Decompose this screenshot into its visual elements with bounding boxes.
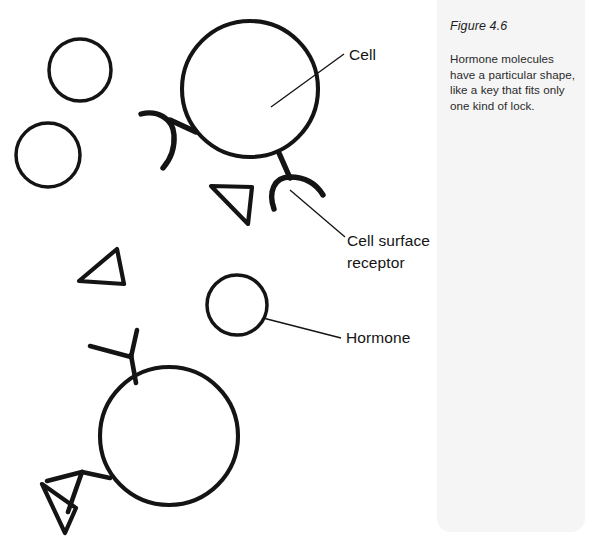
bottom-cell-receptor-lower-left-stem <box>82 472 110 478</box>
caption-block: Figure 4.6 Hormone molecules have a part… <box>450 18 578 113</box>
bottom-cell-receptor-upper-left-arm-right <box>131 330 137 357</box>
round-hormone-3 <box>207 275 267 335</box>
bottom-cell-receptor-lower-left-arm-upper <box>47 472 82 481</box>
triangle-hormone-2 <box>79 249 124 284</box>
label-cell-surface-receptor-line2: receptor <box>347 254 405 271</box>
label-cell: Cell <box>349 46 376 63</box>
figure-number-label: Figure 4.6 <box>450 18 578 34</box>
leader-line-cell-surface-receptor <box>290 190 345 237</box>
top-cell-receptor-lower-right-cup <box>272 177 323 209</box>
top-cell-membrane <box>182 21 318 157</box>
figure-4-6: Figure 4.6 Hormone molecules have a part… <box>0 0 598 548</box>
label-cell-surface-receptor-line1: Cell surface <box>347 232 430 249</box>
top-cell-receptor-upper-left-cup <box>141 113 174 168</box>
label-hormone: Hormone <box>346 329 410 346</box>
leader-line-cell <box>271 54 344 107</box>
bottom-cell-receptor-upper-left-arm-left <box>90 346 131 357</box>
round-hormone-2 <box>16 123 80 187</box>
round-hormone-1 <box>49 39 111 101</box>
top-cell-receptor-lower-right-stem <box>279 153 290 178</box>
triangle-hormone-1 <box>211 186 252 224</box>
leader-line-hormone <box>263 318 341 338</box>
figure-caption-text: Hormone molecules have a particular shap… <box>450 51 578 113</box>
hormone-receptor-illustration: Cell Cell surface receptor Hormone <box>0 0 440 548</box>
bottom-cell-membrane <box>100 367 238 505</box>
